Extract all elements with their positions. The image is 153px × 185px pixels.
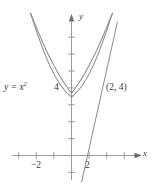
tangency-point-label: (2, 4): [106, 83, 127, 93]
tangent-line: [82, 22, 118, 182]
y-axis-label: y: [79, 12, 83, 21]
x-tick-label-2: 2: [85, 161, 90, 171]
y-tick-label-4: 4: [54, 83, 59, 93]
plot-canvas: [0, 0, 153, 185]
y-axis-arrowhead: [69, 14, 75, 22]
curve-equation-exponent: 2: [24, 80, 27, 87]
curve-equation-base: y = x: [4, 82, 24, 92]
curve-equation-label: y = x2: [4, 83, 27, 93]
x-tick-label-negative-2: −2: [31, 161, 41, 171]
figure-parabola-tangent: y x 4 −2 2 y = x2 (2, 4): [0, 0, 153, 185]
x-axis-arrowhead: [135, 153, 143, 159]
x-axis-label: x: [143, 149, 147, 158]
